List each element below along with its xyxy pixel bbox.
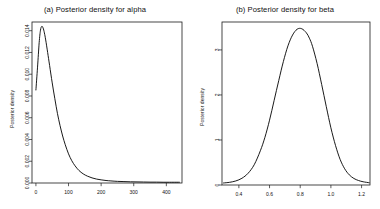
y-tick-label: 0.012 xyxy=(24,46,30,59)
y-tick-label: 2 xyxy=(214,93,220,96)
panel-b-ylabel: Posterior density xyxy=(199,88,205,126)
density-curve xyxy=(224,28,370,183)
y-tick-label: 0.002 xyxy=(24,155,30,168)
x-tick-label: 0.4 xyxy=(235,191,242,197)
y-tick-label: 0.010 xyxy=(24,68,30,81)
x-tick-label: 0 xyxy=(35,189,38,195)
y-tick-label: 0 xyxy=(214,183,220,186)
panel-posterior-beta: (b) Posterior density for beta 0.40.60.8… xyxy=(190,0,380,209)
panel-b-plot: 0.40.60.81.01.20123 xyxy=(190,0,380,209)
y-tick-label: 3 xyxy=(214,48,220,51)
panel-a-plot: 01002003004000.0000.0020.0040.0060.0080.… xyxy=(0,0,190,209)
plot-frame xyxy=(222,22,370,185)
x-tick-label: 200 xyxy=(97,189,106,195)
panel-posterior-alpha: (a) Posterior density for alpha Posterio… xyxy=(0,0,190,209)
y-tick-label: 0.006 xyxy=(24,111,30,124)
y-tick-label: 0.004 xyxy=(24,133,30,146)
figure-posterior-densities: (a) Posterior density for alpha Posterio… xyxy=(0,0,380,209)
y-tick-label: 0.000 xyxy=(24,177,30,190)
x-tick-label: 300 xyxy=(130,189,139,195)
y-tick-label: 0.008 xyxy=(24,89,30,102)
x-tick-label: 0.8 xyxy=(297,191,304,197)
x-tick-label: 100 xyxy=(64,189,73,195)
y-tick-label: 1 xyxy=(214,138,220,141)
x-tick-label: 1.0 xyxy=(327,191,334,197)
x-tick-label: 1.2 xyxy=(358,191,365,197)
x-tick-label: 0.6 xyxy=(266,191,273,197)
y-tick-label: 0.014 xyxy=(24,24,30,37)
x-tick-label: 400 xyxy=(162,189,171,195)
plot-frame xyxy=(32,22,182,183)
density-curve xyxy=(36,26,179,182)
